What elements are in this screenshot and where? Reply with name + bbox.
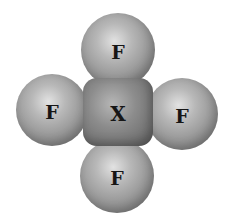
- fluorine-atom-left: F: [16, 74, 88, 146]
- atom-label: X: [110, 102, 126, 126]
- atom-label: F: [110, 167, 124, 189]
- atom-label: F: [111, 41, 125, 63]
- fluorine-atom-right: F: [146, 78, 218, 150]
- fluorine-atom-top: F: [81, 13, 155, 87]
- central-atom-x: X: [83, 78, 153, 146]
- atom-label: F: [175, 105, 189, 127]
- molecule-diagram: F F F F X: [0, 0, 230, 224]
- fluorine-atom-bottom: F: [80, 139, 154, 213]
- atom-label: F: [45, 101, 59, 123]
